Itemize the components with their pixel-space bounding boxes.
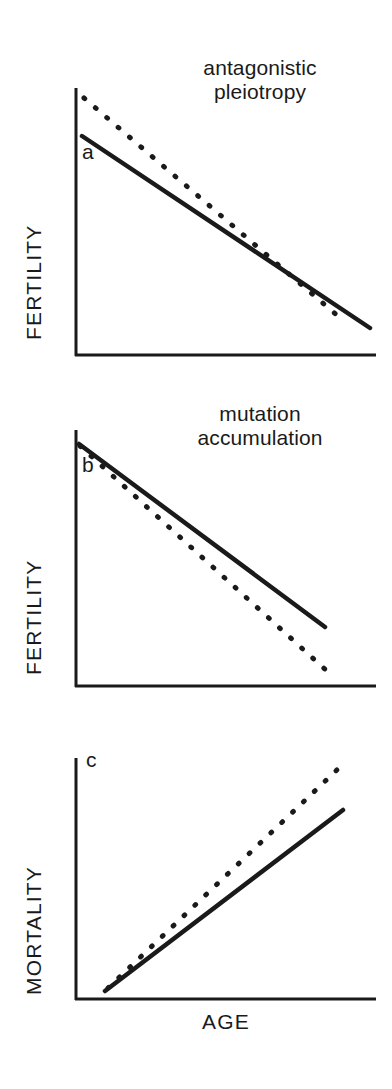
panel-a-series-solid <box>82 136 370 328</box>
panel-b-plot <box>0 390 392 690</box>
panel-b-series-solid <box>79 444 325 627</box>
panel-b-series-dotted <box>80 446 328 672</box>
panel-b: mutation accumulation FERTILITY b <box>0 390 392 690</box>
panel-c-series-dotted <box>108 766 341 988</box>
panel-c: MORTALITY c AGE <box>0 700 392 1010</box>
x-axis-label: AGE <box>76 1010 376 1034</box>
panel-c-plot <box>0 700 392 1010</box>
panel-a: antagonistic pleiotropy FERTILITY a <box>0 40 392 370</box>
figure-container: antagonistic pleiotropy FERTILITY a muta… <box>0 0 392 1089</box>
panel-c-series-solid <box>105 810 343 991</box>
panel-a-plot <box>0 40 392 370</box>
